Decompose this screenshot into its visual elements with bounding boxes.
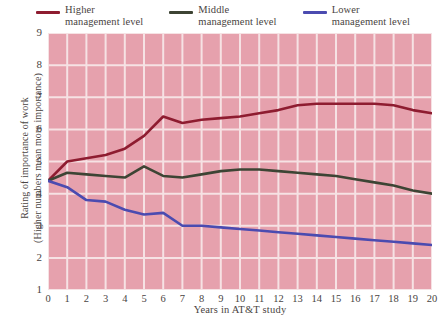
y-axis-title-line1: Rating of importance of work xyxy=(18,33,31,283)
plot-area xyxy=(48,33,432,290)
x-axis-title: Years in AT&T study xyxy=(48,304,432,315)
x-axis-tick-20: 20 xyxy=(420,293,444,304)
plot-wrapper: 987654321 012345678910111213141516171819… xyxy=(0,0,446,323)
y-axis-title-line2: (Higher numbers mean more importance) xyxy=(31,33,44,283)
data-lines xyxy=(48,33,432,290)
y-axis-title: Rating of importance of work (Higher num… xyxy=(18,33,44,283)
chart-root: Higher management level Middle managemen… xyxy=(0,0,446,323)
